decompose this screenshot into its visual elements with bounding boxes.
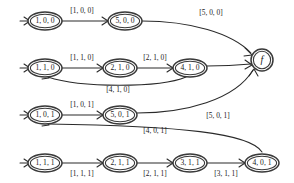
node-label: 1, 1, 1 xyxy=(36,158,55,167)
graph-node[interactable]: 2, 1, 1 xyxy=(103,154,137,172)
graph-node[interactable]: f xyxy=(251,49,273,71)
edge-label: [2, 1, 0] xyxy=(143,53,166,62)
state-transition-graph: 1, 0, 05, 0, 01, 1, 02, 1, 04, 1, 01, 0,… xyxy=(0,0,294,183)
arrowheads-layer xyxy=(24,17,258,167)
edge-label: [1, 1, 1] xyxy=(70,169,93,178)
graph-node[interactable]: 3, 1, 1 xyxy=(173,154,207,172)
graph-node[interactable]: 1, 1, 0 xyxy=(28,59,62,77)
graph-node[interactable]: 1, 1, 1 xyxy=(28,154,62,172)
edge-label: [1, 1, 0] xyxy=(70,53,93,62)
graph-node[interactable]: 5, 0, 1 xyxy=(103,106,137,124)
node-label: 1, 0, 1 xyxy=(36,110,55,119)
node-label: 5, 0, 0 xyxy=(116,16,135,25)
diagram-canvas: 1, 0, 05, 0, 01, 1, 02, 1, 04, 1, 01, 0,… xyxy=(0,0,294,183)
edge-label: [5, 0, 1] xyxy=(206,111,229,120)
node-label: 2, 1, 0 xyxy=(111,63,130,72)
edge-label: [4, 0, 1] xyxy=(143,126,166,135)
edge-label: [3, 1, 1] xyxy=(214,169,237,178)
edge-label: [5, 0, 0] xyxy=(199,8,222,17)
graph-node[interactable]: 1, 0, 0 xyxy=(28,12,62,30)
edge-label: [1, 0, 1] xyxy=(70,100,93,109)
edge-n5-to-nf xyxy=(207,64,251,66)
edges-layer xyxy=(20,21,262,163)
node-label: 4, 1, 0 xyxy=(181,63,200,72)
node-label: 4, 0, 1 xyxy=(253,158,272,167)
edge-n2-to-nf xyxy=(142,21,251,53)
graph-node[interactable]: 4, 0, 1 xyxy=(245,154,279,172)
node-label: 2, 1, 1 xyxy=(111,158,130,167)
graph-node[interactable]: 5, 0, 0 xyxy=(108,12,142,30)
arrowhead-icon xyxy=(244,48,252,56)
graph-node[interactable]: 4, 1, 0 xyxy=(173,59,207,77)
edge-label: [1, 0, 0] xyxy=(70,6,93,15)
node-label: 1, 1, 0 xyxy=(36,63,55,72)
node-label: 5, 0, 1 xyxy=(111,110,130,119)
node-label: 1, 0, 0 xyxy=(36,16,55,25)
nodes-layer: 1, 0, 05, 0, 01, 1, 02, 1, 04, 1, 01, 0,… xyxy=(28,12,279,172)
edge-label: [4, 1, 0] xyxy=(106,85,129,94)
node-label: 3, 1, 1 xyxy=(181,158,200,167)
graph-node[interactable]: 1, 0, 1 xyxy=(28,106,62,124)
edge-label: [2, 1, 1] xyxy=(143,169,166,178)
graph-node[interactable]: 2, 1, 0 xyxy=(103,59,137,77)
